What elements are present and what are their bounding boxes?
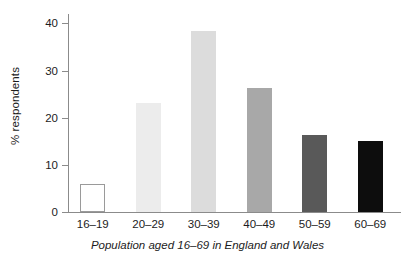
x-axis-tick-label: 50–59 (299, 218, 331, 230)
bar-60-69[interactable] (358, 141, 383, 212)
plot-area (68, 14, 401, 212)
y-axis-tick-label: 0 (32, 206, 58, 218)
x-axis-line (68, 212, 401, 213)
y-axis-title: % respondents (4, 0, 26, 212)
x-axis-tick-label: 16–19 (77, 218, 109, 230)
x-axis-tick-label: 60–69 (354, 218, 386, 230)
y-axis-tick-label: 40 (32, 17, 58, 29)
y-axis-tick-label: 20 (32, 112, 58, 124)
y-axis-tick-label: 10 (32, 159, 58, 171)
y-axis-title-text: % respondents (9, 67, 21, 145)
bar-50-59[interactable] (302, 135, 327, 212)
bar-chart-figure: % respondents 010203040 16–1920–2930–394… (0, 0, 415, 269)
bar-20-29[interactable] (136, 103, 161, 212)
y-axis-tick (62, 212, 69, 213)
y-axis-tick-label: 30 (32, 65, 58, 77)
x-axis-title: Population aged 16–69 in England and Wal… (0, 239, 415, 251)
x-axis-tick-label: 30–39 (188, 218, 220, 230)
bar-40-49[interactable] (247, 88, 272, 212)
x-axis-tick-label: 20–29 (132, 218, 164, 230)
x-axis-tick-label: 40–49 (243, 218, 275, 230)
bar-16-19[interactable] (80, 184, 105, 212)
bar-30-39[interactable] (191, 31, 216, 212)
